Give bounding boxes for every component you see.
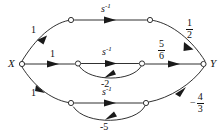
gain-top-s-exponent: -1: [105, 2, 111, 10]
gain-label-bot-feedback: -5: [100, 122, 108, 132]
gain-label-bot-transmittance: s-1: [102, 87, 112, 97]
node-label-y: Y: [210, 58, 216, 69]
arrowhead-feedback-bot: [105, 112, 117, 120]
node-n5: [68, 100, 73, 105]
node-source-x: [19, 61, 24, 66]
node-n1: [68, 17, 73, 22]
arrowhead-x-n1: [37, 36, 47, 45]
gain-label-top-entry: 1: [31, 25, 36, 35]
edge-x-to-n5: [22, 67, 68, 103]
edge-x-to-n1: [22, 21, 68, 62]
arrowhead-n1-n2: [104, 17, 116, 24]
fraction-denominator: 2: [186, 30, 193, 41]
node-n6: [143, 100, 148, 105]
gain-label-mid-exit: 5 6: [158, 39, 165, 61]
fraction-four-thirds: 4 3: [197, 92, 204, 114]
edge-n4-feedback-to-n3: [80, 67, 142, 79]
gain-label-bot-exit: − 4 3: [190, 92, 204, 114]
fraction-denominator: 6: [158, 51, 165, 62]
arrowhead-x-n3: [47, 61, 59, 68]
gain-label-mid-entry: 1: [50, 49, 55, 59]
node-n3: [75, 61, 80, 66]
arrowhead-x-n5: [35, 85, 45, 93]
fraction-one-half: 1 2: [186, 18, 193, 40]
arrowhead-feedback-mid: [104, 70, 116, 78]
fraction-numerator: 4: [197, 92, 204, 104]
minus-sign: −: [190, 98, 196, 108]
arrowheads: [35, 17, 194, 120]
gain-bot-s-exponent: -1: [106, 85, 112, 93]
gain-label-mid-transmittance: s-1: [102, 47, 112, 57]
gain-label-top-exit: 1 2: [186, 18, 193, 40]
gain-mid-s-exponent: -1: [106, 45, 112, 53]
arrowhead-n5-n6: [104, 100, 116, 107]
fraction-five-sixths: 5 6: [158, 39, 165, 61]
gain-label-top-transmittance: s-1: [101, 4, 111, 14]
signed-fraction-neg-four-thirds: − 4 3: [190, 92, 204, 114]
arrowhead-n4-y: [168, 61, 180, 68]
gain-label-bot-entry: 1: [31, 88, 36, 98]
fraction-denominator: 3: [197, 104, 204, 115]
node-sink-y: [201, 61, 206, 66]
fraction-numerator: 5: [158, 39, 165, 51]
signal-flow-graph-figure: X Y 1 s-1 1 2 1 s-1 -2 5 6 1 s-1 -5 − 4 …: [0, 0, 223, 139]
node-label-x: X: [8, 58, 15, 69]
node-n4: [139, 61, 144, 66]
fraction-numerator: 1: [186, 18, 193, 30]
arrowhead-n3-n4: [105, 60, 117, 67]
node-n2: [147, 17, 152, 22]
